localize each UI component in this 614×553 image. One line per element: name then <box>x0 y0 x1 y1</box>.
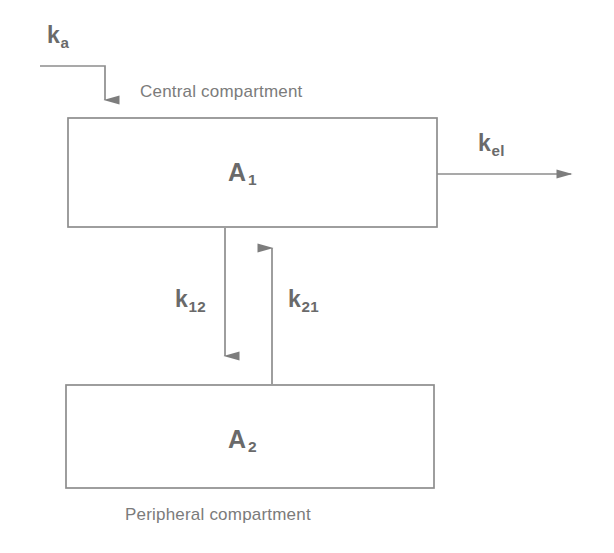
central-compartment-box <box>68 118 437 227</box>
diagram-canvas <box>0 0 614 553</box>
peripheral-compartment-box <box>66 385 434 488</box>
ka-arrow <box>40 66 105 100</box>
pharmacokinetic-model-diagram: ka Central compartment A1 kel k12 k21 A2… <box>0 0 614 553</box>
